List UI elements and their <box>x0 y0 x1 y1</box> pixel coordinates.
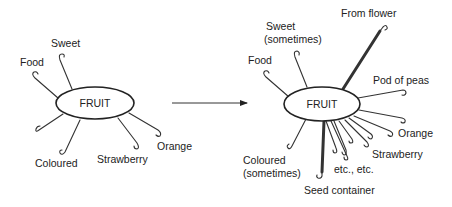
label-food-right: Food <box>248 54 272 66</box>
label-coloured-line1: Coloured <box>243 154 286 166</box>
hook-orange <box>129 113 161 136</box>
label-seed-container: Seed container <box>304 184 375 196</box>
label-strawberry: Strawberry <box>97 153 149 165</box>
hook-sweet-sometimes <box>294 51 307 87</box>
label-pod-of-peas: Pod of peas <box>373 74 429 86</box>
label-sweet-line2: (sometimes) <box>264 33 322 45</box>
hook-coloured-sometimes <box>287 119 306 149</box>
label-food: Food <box>20 56 44 68</box>
label-coloured: Coloured <box>35 157 78 169</box>
hook-pod-of-peas <box>358 90 406 98</box>
hook-seed-container <box>322 121 324 172</box>
before-network: FRUIT Sweet Food Coloured Strawberry Ora… <box>20 37 192 169</box>
hook-coloured <box>60 120 80 154</box>
label-orange-right: Orange <box>398 127 433 139</box>
fruit-label-before: FRUIT <box>80 97 111 109</box>
hook-food-right <box>264 71 289 97</box>
label-orange: Orange <box>157 140 192 152</box>
label-from-flower: From flower <box>341 7 397 19</box>
hook-strawberry <box>118 118 139 149</box>
hook-unlabeled <box>36 114 63 131</box>
label-strawberry-right: Strawberry <box>372 148 424 160</box>
label-sweet: Sweet <box>51 37 80 49</box>
fruit-label-after: FRUIT <box>307 98 338 110</box>
fruit-concept-diagram: FRUIT Sweet Food Coloured Strawberry Ora… <box>0 0 452 207</box>
hook-extra-5 <box>326 121 337 153</box>
hook-from-flower-tip <box>380 26 387 32</box>
label-etc: etc., etc. <box>334 163 374 175</box>
after-network: FRUIT From flower Sweet (sometimes) Food… <box>243 7 433 196</box>
label-sweet-line1: Sweet <box>266 20 295 32</box>
label-coloured-line2: (sometimes) <box>243 167 301 179</box>
hook-sweet <box>59 54 72 89</box>
hook-food <box>33 72 58 98</box>
hook-extra-3 <box>339 121 353 143</box>
